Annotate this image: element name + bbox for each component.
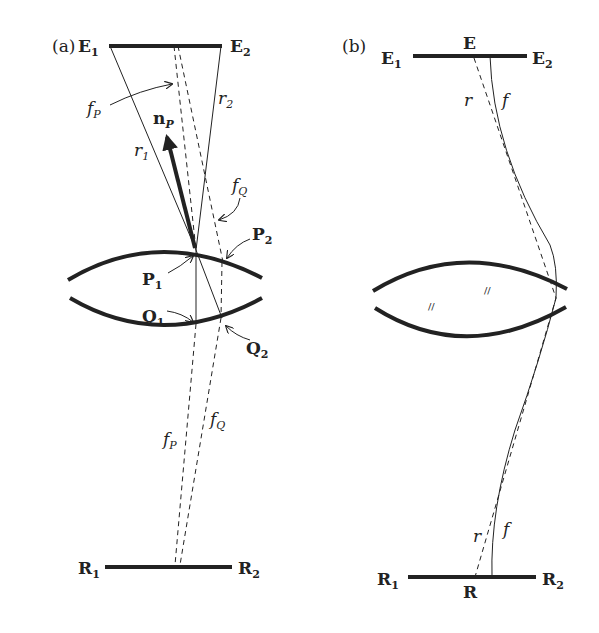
- diagram-canvas: (a) E1 E2 R1 R2 nP r1 r2 fP: [0, 0, 599, 633]
- ray-fp-top: [174, 46, 196, 250]
- arrow-fp-top: [110, 84, 172, 105]
- panel-a-label: (a): [52, 36, 75, 56]
- label-np: nP: [153, 108, 174, 131]
- panel-b: (b) E1 E E2 R1 R R2 // // r f r f: [342, 33, 567, 602]
- lens-upper-surface: [68, 252, 262, 280]
- arrow-fq-top: [219, 198, 240, 220]
- label-q2: Q2: [246, 338, 268, 361]
- ray-fp-bottom: [175, 324, 196, 565]
- panel-a: (a) E1 E2 R1 R2 nP r1 r2 fP: [52, 36, 272, 581]
- label-fp-top: fP: [85, 98, 101, 121]
- arrow-p2: [227, 239, 250, 258]
- label-r1-ray: r1: [134, 140, 149, 163]
- ray-r2: [196, 46, 221, 250]
- arrow-p1: [168, 256, 193, 273]
- label-f-top: f: [500, 90, 511, 110]
- label-f-bottom: f: [501, 519, 512, 539]
- lens-lower-surface: [70, 298, 262, 325]
- label-r-bottom: r: [473, 526, 482, 546]
- arrow-q1: [167, 311, 193, 322]
- ray-fq-top: [178, 46, 223, 262]
- label-p2: P2: [252, 224, 272, 247]
- lens-mark-2: //: [484, 285, 491, 296]
- label-r2: R2: [542, 569, 564, 592]
- label-fq-top: fQ: [230, 175, 247, 198]
- label-e-center: E: [463, 33, 476, 53]
- normal-vector-np: [167, 137, 195, 248]
- ray-p2-q2: [221, 262, 222, 318]
- label-r1: R1: [377, 569, 399, 592]
- label-e2: E2: [532, 48, 553, 71]
- lens-upper-surface: [373, 262, 567, 291]
- label-e2: E2: [230, 36, 251, 59]
- label-r-top: r: [464, 90, 473, 110]
- label-r2: R2: [238, 558, 260, 581]
- label-e1: E1: [78, 36, 99, 59]
- label-p1: P1: [142, 269, 162, 292]
- label-r1: R1: [78, 558, 100, 581]
- label-e1: E1: [381, 48, 402, 71]
- lens-lower-surface: [375, 307, 566, 336]
- label-r-center: R: [463, 582, 478, 602]
- label-r2-ray: r2: [218, 88, 233, 111]
- optics-diagram: (a) E1 E2 R1 R2 nP r1 r2 fP: [0, 0, 599, 633]
- panel-b-label: (b): [342, 36, 366, 56]
- label-fq-bottom: fQ: [208, 409, 225, 432]
- label-fp-bottom: fP: [161, 429, 177, 452]
- label-q1: Q1: [142, 306, 164, 329]
- lens-mark-1: //: [428, 301, 435, 312]
- ray-r1: [110, 46, 196, 250]
